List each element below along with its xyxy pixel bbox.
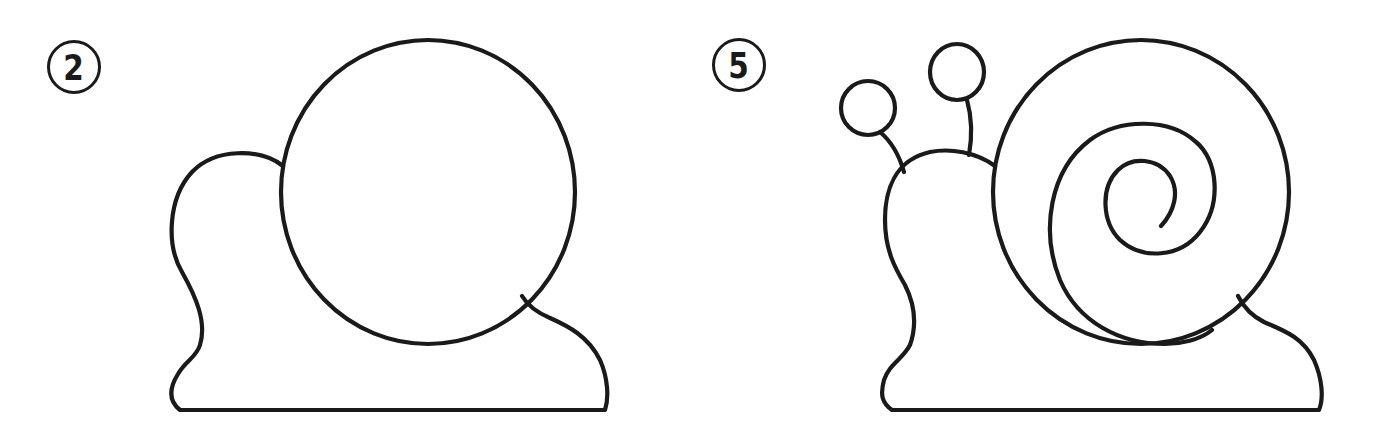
snail-shell-circle — [281, 40, 575, 344]
step-number: 5 — [729, 48, 750, 84]
left-eye-icon — [841, 81, 895, 135]
right-antenna — [967, 100, 971, 155]
snail-drawings — [0, 0, 1373, 443]
step-number: 2 — [64, 50, 85, 86]
step-5-drawing — [841, 40, 1322, 410]
snail-shell-spiral — [1050, 124, 1215, 344]
snail-body-outline — [882, 151, 1322, 410]
drawing-steps-canvas: 2 5 — [0, 0, 1373, 443]
step-number-badge: 5 — [712, 38, 766, 92]
right-eye-icon — [930, 44, 984, 100]
snail-shell-circle — [993, 40, 1289, 344]
step-2-drawing — [171, 40, 607, 410]
snail-body-outline — [171, 153, 607, 410]
step-number-badge: 2 — [47, 40, 101, 94]
